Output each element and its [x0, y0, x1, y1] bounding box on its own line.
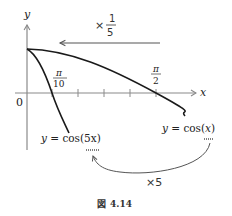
svg-text:π: π — [152, 64, 160, 74]
origin-label: 0 — [16, 96, 23, 109]
label-cos-x: y = cos(x) — [161, 122, 215, 139]
compress-factor-label: × 1 5 — [95, 13, 116, 38]
svg-text:π: π — [55, 68, 63, 78]
pi-over-10-label: π 10 — [53, 68, 67, 89]
svg-text:×: × — [95, 19, 104, 32]
svg-text:1: 1 — [109, 13, 115, 24]
svg-text:2: 2 — [153, 76, 159, 86]
curve-cos-x — [27, 49, 185, 116]
svg-text:図: 図 — [97, 199, 106, 209]
pi-over-2-label: π 2 — [151, 64, 161, 86]
label-cos-5x: y = cos(5x) — [40, 132, 101, 150]
svg-text:y = cos(x): y = cos(x) — [161, 122, 215, 134]
curve-cos-5x — [27, 49, 69, 133]
svg-text:4.14: 4.14 — [110, 199, 132, 209]
cosine-scaling-diagram: y x 0 × 1 5 π 10 π 2 y = cos(5x) y = cos… — [0, 0, 232, 216]
y-axis-label: y — [23, 8, 31, 21]
x-axis-label: x — [200, 86, 207, 99]
figure-caption: 図 4.14 — [97, 199, 132, 209]
svg-text:y = cos(5x): y = cos(5x) — [40, 132, 101, 144]
svg-text:10: 10 — [53, 79, 65, 89]
stretch-arrow — [93, 143, 210, 173]
stretch-factor-label: ×5 — [146, 176, 162, 189]
svg-text:5: 5 — [107, 27, 113, 38]
